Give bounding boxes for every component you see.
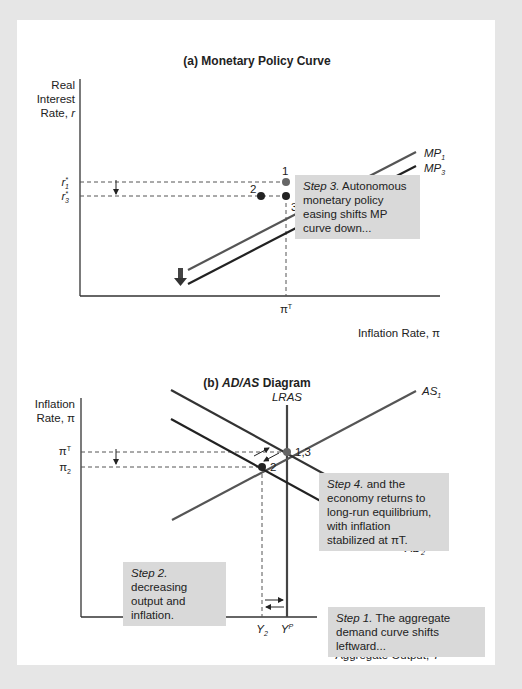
panel-a-ylabel-2: Interest [37,93,76,105]
figure-panel: (a) Monetary Policy Curve Real Interest … [17,20,495,665]
panel-a-xlabel: Inflation Rate, π [358,327,440,339]
step2-label: Step 2. [131,567,167,579]
eq-down-arrow-icon [264,453,279,461]
point-3 [282,192,290,200]
point-1 [282,178,290,186]
step1-callout: Step 1. The aggregate demand curve shift… [328,607,485,657]
panel-a-ylabel-3: Rate, r [40,107,76,119]
tick-y2: Y2 [256,623,268,637]
step4-label: Step 4. [327,478,363,490]
panel-a-title: (a) Monetary Policy Curve [183,54,331,68]
point-2 [257,192,265,200]
point-2-b [258,463,266,471]
step3-label: Step 3. [303,180,339,192]
step4-callout: Step 4. and the economy returns to long-… [319,473,449,551]
point-2-label: 2 [250,183,256,195]
tick-r3: r*3 [62,190,70,204]
step1-label: Step 1. [336,612,372,624]
step2-callout: Step 2. decreasing output and inflation. [123,562,226,626]
shift-down-arrow-icon [178,268,183,278]
tick-piT-a: πT [280,303,293,315]
step3-callout: Step 3. Autonomous monetary policy easin… [295,175,420,239]
panel-b-ylabel-2: Rate, π [36,412,75,424]
lras-label: LRAS [272,391,302,403]
panel-b-title: (b) AD/AS Diagram [203,376,310,390]
point-1-3 [283,448,291,456]
step2-text: decreasing output and inflation. [131,581,187,621]
mp3-label: MP3 [424,162,445,176]
tick-piT-b: πT [59,445,72,457]
tick-pi2: π2 [59,461,71,475]
as1-label: AS1 [421,385,441,399]
point-1-label: 1 [282,165,288,177]
point-2b-label: 2 [270,461,276,473]
tick-r1: r*1 [62,176,70,190]
panel-b-ylabel-1: Inflation [35,398,75,410]
panel-a-ylabel-1: Real [51,79,75,91]
tick-yp: YP [281,623,294,635]
diagram-canvas: (a) Monetary Policy Curve Real Interest … [17,20,495,665]
point-13-label: 1,3 [295,446,311,458]
mp1-label: MP1 [424,147,445,161]
